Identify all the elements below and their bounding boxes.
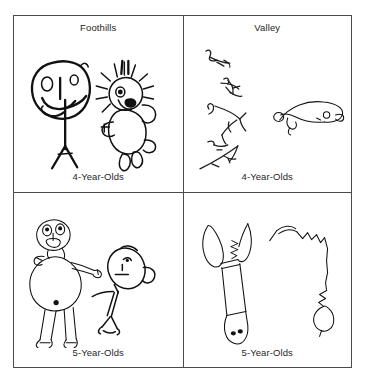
drawing-round-body-figure-with-limbs	[30, 219, 102, 347]
drawing-area-valley-5	[184, 212, 352, 348]
panel-foothills-4-year-olds: Foothills	[14, 16, 183, 192]
panel-grid: Foothills	[13, 15, 352, 368]
panel-site-title: Valley	[254, 23, 280, 35]
drawing-spiky-haired-figure	[96, 61, 155, 171]
drawing-angular-line-with-loop	[269, 226, 333, 336]
panel-foothills-5-year-olds: 5-Year-Olds	[14, 192, 183, 368]
drawing-vertical-pronged-form	[202, 223, 251, 343]
drawing-scribble-marks-column	[199, 50, 245, 169]
drawing-area-foothills-4	[14, 35, 183, 172]
panel-site-title: Foothills	[80, 23, 116, 35]
figure-root: Foothills	[0, 0, 366, 381]
panel-age-label: 4-Year-Olds	[242, 172, 293, 182]
panel-valley-5-year-olds: 5-Year-Olds	[183, 192, 352, 368]
drawing-tilted-head-stick-figure	[92, 245, 155, 334]
panel-age-label: 5-Year-Olds	[73, 348, 124, 358]
drawing-tadpole-figure-smiling-face	[32, 61, 90, 168]
panel-valley-4-year-olds: Valley	[183, 16, 352, 192]
drawing-elongated-blob-creature	[273, 102, 343, 135]
panel-age-label: 4-Year-Olds	[73, 172, 124, 182]
drawing-area-foothills-5	[14, 212, 183, 348]
panel-age-label: 5-Year-Olds	[242, 348, 293, 358]
drawing-area-valley-4	[184, 35, 352, 172]
